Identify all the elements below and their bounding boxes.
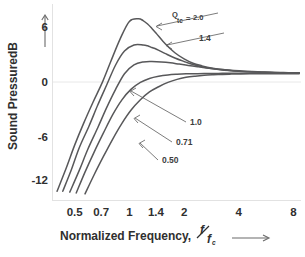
qtc-param-equals: =: [186, 14, 191, 23]
x-axis-symbol-denominator-sub: c: [212, 239, 216, 246]
curve-label-2-0: 2.0: [193, 13, 203, 22]
y-tick-label-3: -12: [31, 174, 48, 186]
y-axis-title: Sound Pressure: [6, 58, 20, 150]
y-tick-label-0: 6: [42, 21, 48, 33]
y-axis-unit-label: dB: [6, 42, 20, 58]
x-tick-label-5: 4: [236, 206, 243, 218]
curve-label-1-0: 1.0: [190, 117, 202, 127]
curve-label-0-50: 0.50: [162, 155, 179, 165]
x-tick-label-1: 0.7: [93, 206, 109, 218]
y-tick-label-1: 0: [42, 76, 48, 88]
x-tick-label-3: 1.4: [148, 206, 165, 218]
qtc-param-subscript: tc: [177, 17, 183, 24]
x-tick-label-2: 1: [126, 206, 133, 218]
curve-label-1-4: 1.4: [199, 33, 211, 43]
chart-background: [0, 0, 305, 257]
y-tick-label-2: -6: [38, 131, 48, 143]
curve-label-0-71: 0.71: [176, 137, 193, 147]
x-tick-label-4: 2: [181, 206, 187, 218]
x-tick-label-6: 8: [290, 206, 297, 218]
x-tick-label-0: 0.5: [67, 206, 84, 218]
x-axis-title: Normalized Frequency,: [60, 229, 191, 243]
sound-pressure-response-chart: 6 0 -6 -12 Sound Pressure dB 0.50.711.42…: [0, 0, 305, 257]
chart-container: 6 0 -6 -12 Sound Pressure dB 0.50.711.42…: [0, 0, 305, 257]
